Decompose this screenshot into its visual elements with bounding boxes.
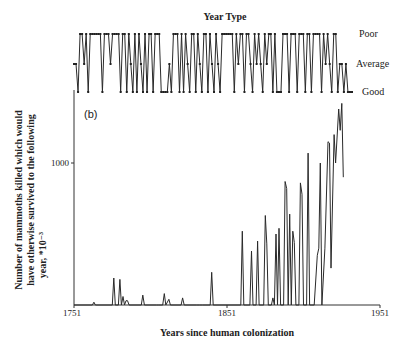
top-panel-title: Year Type (203, 11, 247, 22)
year-type-series (74, 34, 352, 92)
x-axis-label: Years since human colonization (160, 327, 295, 338)
level-label-poor: Poor (359, 28, 379, 39)
x-tick-label-1851: 1851 (218, 308, 236, 318)
y-axis-label: Number of mammoths killed which would ha… (13, 110, 48, 290)
y-axis-label-line3: year, *10⁻³ (37, 232, 48, 278)
kills-series (74, 103, 343, 305)
level-label-average: Average (356, 58, 390, 69)
level-label-good: Good (362, 86, 384, 97)
y-axis-label-line2: have otherwise survived to the following (25, 114, 36, 285)
x-tick-label-1951: 1951 (371, 308, 389, 318)
y-axis-label-line1: Number of mammoths killed which would (13, 110, 24, 290)
panel-label: (b) (84, 108, 97, 120)
x-tick-label-1751: 1751 (63, 308, 81, 318)
mammoth-chart: Year Type Poor Average Good 1000 1751 18… (0, 0, 410, 346)
y-tick-label-1000: 1000 (51, 158, 70, 168)
